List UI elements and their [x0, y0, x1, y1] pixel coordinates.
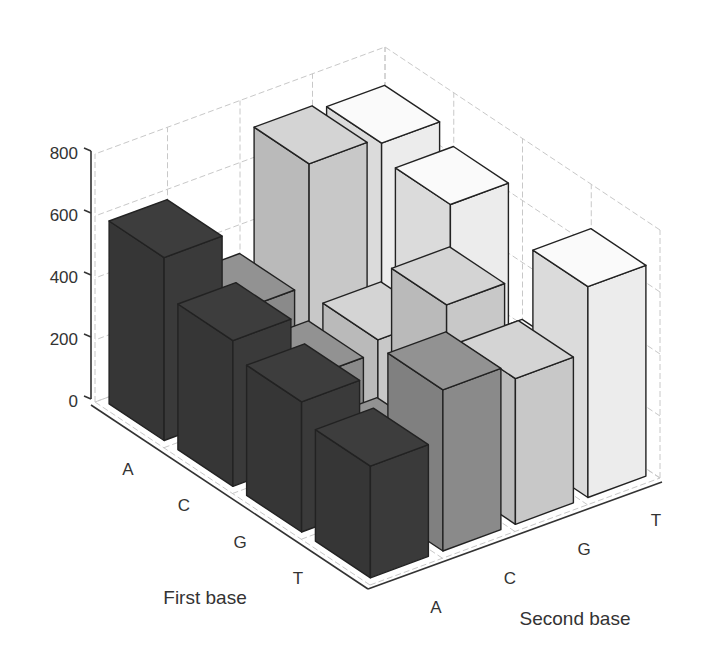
- second-base-title: Second base: [520, 608, 631, 629]
- first-base-title: First base: [163, 587, 246, 608]
- first-base-tick-T: T: [293, 569, 303, 588]
- z-tick-mark: [84, 210, 91, 213]
- bar3d-chart: 0 200 400 600 800 A C G T First base A C…: [0, 0, 703, 654]
- second-base-tick-C: C: [504, 569, 516, 588]
- second-base-tick-A: A: [430, 598, 442, 617]
- z-tick-0: 0: [69, 392, 78, 411]
- first-base-tick-C: C: [178, 496, 190, 515]
- first-base-tick-G: G: [233, 533, 246, 552]
- z-tick-mark: [84, 272, 91, 275]
- bar-face-right: [443, 368, 501, 551]
- z-tick-mark: [84, 396, 91, 399]
- z-tick-600: 600: [50, 206, 78, 225]
- z-tick-400: 400: [50, 268, 78, 287]
- second-base-tick-G: G: [577, 540, 590, 559]
- bar-face-left: [109, 221, 164, 441]
- bar-face-right: [370, 445, 428, 578]
- bar-face-right: [515, 357, 573, 524]
- z-tick-800: 800: [50, 144, 78, 163]
- z-tick-mark: [84, 148, 91, 151]
- second-base-tick-T: T: [651, 511, 661, 530]
- z-tick-200: 200: [50, 330, 78, 349]
- first-base-tick-A: A: [122, 460, 134, 479]
- bar-face-right: [588, 265, 646, 497]
- z-tick-mark: [84, 334, 91, 337]
- bar-T-A: [315, 408, 428, 578]
